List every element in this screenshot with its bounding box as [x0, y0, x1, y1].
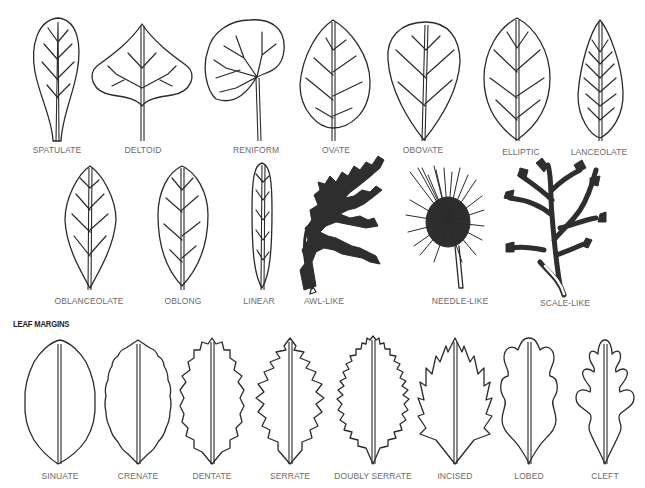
label-incised: INCISED	[437, 471, 472, 481]
leaf-diagram: SPATULATE DELTOID RENIFORM OVATE OBOVATE…	[0, 0, 645, 488]
label-scale-like: SCALE-LIKE	[540, 298, 590, 308]
label-cleft: CLEFT	[591, 471, 618, 481]
label-needle-like: NEEDLE-LIKE	[432, 296, 488, 306]
label-deltoid: DELTOID	[125, 145, 162, 155]
sinuate-margin-leaf-icon	[25, 340, 95, 464]
linear-leaf-icon	[252, 163, 272, 290]
label-lanceolate: LANCEOLATE	[571, 147, 628, 157]
section-heading-leaf-margins: LEAF MARGINS	[13, 319, 69, 329]
oblong-leaf-icon	[158, 166, 208, 290]
label-awl-like: AWL-LIKE	[304, 296, 344, 306]
doubly-serrate-margin-leaf-icon	[337, 336, 409, 464]
label-ovate: OVATE	[322, 145, 350, 155]
label-crenate: CRENATE	[118, 471, 159, 481]
deltoid-leaf-icon	[92, 24, 192, 141]
leaf-illustrations	[0, 0, 645, 488]
label-oblong: OBLONG	[165, 296, 202, 306]
scale-like-leaf-icon	[504, 158, 606, 295]
label-spatulate: SPATULATE	[33, 145, 82, 155]
oblanceolate-leaf-icon	[65, 166, 116, 290]
cleft-margin-leaf-icon	[576, 340, 634, 464]
label-obovate: OBOVATE	[403, 145, 444, 155]
needle-like-leaf-icon	[406, 166, 484, 288]
serrate-margin-leaf-icon	[256, 338, 324, 464]
label-sinuate: SINUATE	[42, 471, 79, 481]
ovate-leaf-icon	[300, 20, 370, 141]
incised-margin-leaf-icon	[418, 338, 492, 464]
reniform-leaf-icon	[205, 20, 284, 141]
lobed-margin-leaf-icon	[501, 338, 558, 464]
awl-like-leaf-icon	[300, 156, 384, 294]
label-linear: LINEAR	[243, 296, 274, 306]
label-lobed: LOBED	[514, 471, 543, 481]
spatulate-leaf-icon	[34, 18, 79, 141]
crenate-margin-leaf-icon	[105, 340, 171, 464]
label-reniform: RENIFORM	[233, 145, 279, 155]
label-doubly-serrate: DOUBLY SERRATE	[334, 471, 411, 481]
dentate-margin-leaf-icon	[180, 338, 244, 464]
label-oblanceolate: OBLANCEOLATE	[54, 296, 123, 306]
lanceolate-leaf-icon	[578, 20, 623, 141]
label-serrate: SERRATE	[270, 471, 310, 481]
elliptic-leaf-icon	[484, 18, 550, 141]
obovate-leaf-icon	[388, 22, 460, 141]
label-dentate: DENTATE	[192, 471, 231, 481]
label-elliptic: ELLIPTIC	[502, 147, 540, 157]
